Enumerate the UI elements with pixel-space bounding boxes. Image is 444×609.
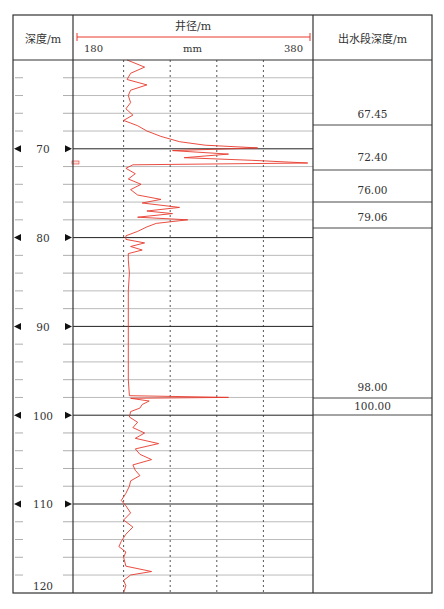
depth-label-70: 70	[13, 143, 73, 155]
water-depth-72-40: 72.40	[313, 151, 432, 163]
scale-max-label: 380	[284, 43, 303, 54]
water-column-header: 出水段深度/m	[313, 15, 432, 60]
water-depth-98-00: 98.00	[313, 381, 432, 393]
scale-unit-label: mm	[183, 43, 202, 54]
depth-label-80: 80	[13, 232, 73, 244]
table-frame	[13, 15, 432, 593]
water-depth-79-06: 79.06	[313, 211, 432, 223]
caliper-log-chart	[0, 0, 444, 609]
water-depth-67-45: 67.45	[313, 108, 432, 120]
depth-label-100: 100	[13, 410, 73, 422]
depth-label-120: 120	[13, 580, 73, 592]
water-segment-lines	[313, 125, 432, 415]
depth-label-110: 110	[13, 498, 73, 510]
caliper-title: 井径/m	[73, 17, 313, 33]
depth-column-header: 深度/m	[13, 15, 73, 60]
depth-label-90: 90	[13, 321, 73, 333]
water-depth-76-00: 76.00	[313, 184, 432, 196]
scale-min-label: 180	[84, 43, 103, 54]
water-depth-100-00: 100.00	[313, 400, 432, 412]
